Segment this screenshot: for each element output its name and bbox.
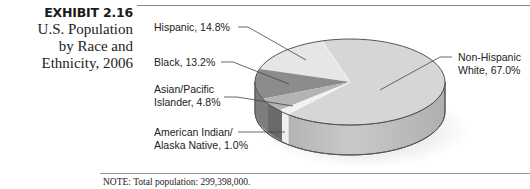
label-white-line-1: Non-Hispanic bbox=[458, 51, 521, 63]
label-black: Black, 13.2% bbox=[154, 56, 215, 68]
bottom-divider bbox=[100, 173, 530, 174]
label-amind-line-2: Alaska Native, 1.0% bbox=[154, 139, 248, 151]
label-asian-line-1: Asian/Pacific bbox=[154, 83, 214, 95]
pie-side-amind bbox=[282, 111, 288, 144]
pie-chart: Hispanic, 14.8% Black, 13.2% Asian/Pacif… bbox=[0, 0, 530, 189]
chart-note: NOTE: Total population: 299,398,000. bbox=[103, 177, 250, 187]
label-white-line-2: White, 67.0% bbox=[458, 64, 520, 76]
label-amind-line-1: American Indian/ bbox=[154, 126, 233, 138]
label-asian-line-2: Islander, 4.8% bbox=[154, 96, 221, 108]
label-hispanic: Hispanic, 14.8% bbox=[154, 21, 230, 33]
